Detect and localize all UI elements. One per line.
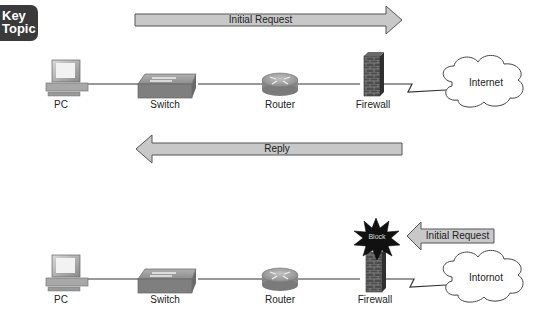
switch-label: Switch [140,294,190,305]
reply-label: Reply [152,143,402,155]
pc-label: PC [46,294,76,305]
pc-icon [46,255,88,291]
initial-request-label: Initial Request [135,14,386,26]
router-label: Router [258,294,302,305]
firewall-label: Firewall [350,294,400,305]
pc-label: PC [46,99,76,110]
blocked-request-label: Initial Request [421,230,494,242]
router-icon [262,268,298,291]
firewall-label: Firewall [348,99,398,110]
switch-icon [138,269,196,293]
switch-label: Switch [140,99,190,110]
block-label: Block [362,233,392,240]
router-label: Router [258,99,302,110]
internet-label: Intornot [456,272,516,283]
switch-icon [138,74,196,98]
router-icon [262,73,298,96]
firewall-icon [364,52,384,96]
internet-label: Internet [456,77,516,88]
pc-icon [46,60,88,96]
